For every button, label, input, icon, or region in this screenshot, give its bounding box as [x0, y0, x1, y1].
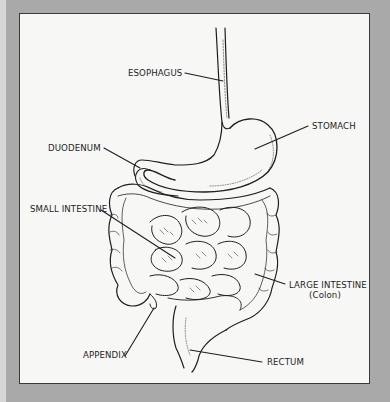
rectum-drawing: [173, 306, 226, 372]
label-duodenum: DUODENUM: [48, 143, 101, 153]
label-small-intestine: SMALL INTESTINE: [30, 204, 107, 214]
label-large-intestine-main: LARGE INTESTINE: [289, 280, 361, 290]
esophagus-drawing: [216, 28, 230, 129]
stomach-leader: [255, 126, 308, 149]
label-rectum: RECTUM: [267, 357, 304, 367]
large-intestine-drawing: [109, 184, 279, 330]
label-stomach: STOMACH: [312, 121, 356, 131]
label-large-intestine-sub: (Colon): [289, 290, 361, 300]
rectum-leader: [190, 350, 262, 362]
duodenum-leader: [104, 148, 140, 168]
digestive-system-illustration: [0, 0, 390, 402]
appendix-drawing: [150, 294, 157, 309]
label-appendix: APPENDIX: [83, 350, 127, 360]
large-intestine-leader: [255, 274, 285, 284]
label-large-intestine: LARGE INTESTINE (Colon): [289, 280, 361, 300]
esophagus-leader: [185, 73, 223, 81]
appendix-leader: [125, 308, 154, 356]
small-intestine-drawing: [150, 207, 250, 300]
label-esophagus: ESOPHAGUS: [128, 68, 182, 78]
stomach-drawing: [134, 119, 277, 192]
